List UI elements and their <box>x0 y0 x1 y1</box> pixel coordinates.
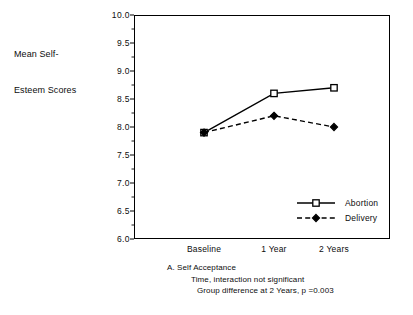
series-delivery <box>200 112 337 136</box>
series-line <box>204 88 334 133</box>
data-point-marker <box>331 85 337 91</box>
caption-line-2: Time, interaction not significant <box>167 274 334 286</box>
data-point-marker <box>330 123 337 130</box>
chart-legend: Abortion Delivery <box>295 196 387 226</box>
legend-item-delivery: Delivery <box>295 211 387 226</box>
data-point-marker <box>271 90 277 96</box>
series-line <box>204 116 334 133</box>
legend-label-delivery: Delivery <box>345 213 377 223</box>
data-point-marker <box>270 112 277 119</box>
chart-figure: Mean Self- Esteem Scores 10.09.59.08.58.… <box>0 0 413 315</box>
figure-caption: A. Self Acceptance Time, interaction not… <box>167 262 334 297</box>
caption-line-1: A. Self Acceptance <box>167 262 334 274</box>
legend-item-abortion: Abortion <box>295 196 387 211</box>
caption-line-3: Group difference at 2 Years, p =0.003 <box>167 285 334 297</box>
legend-label-abortion: Abortion <box>345 198 378 208</box>
